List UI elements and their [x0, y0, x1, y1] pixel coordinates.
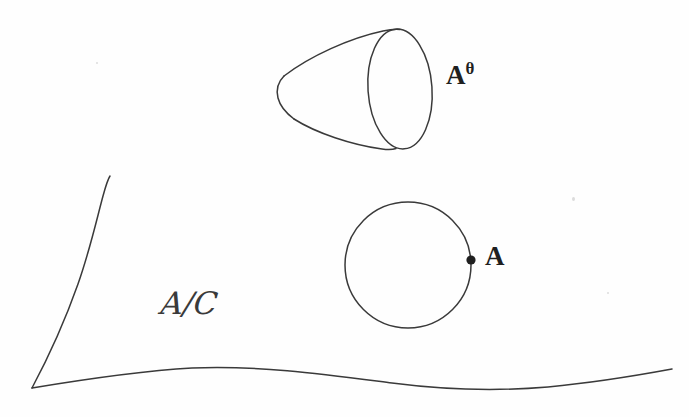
cone-label-base: A [446, 60, 466, 90]
circle-outline [345, 202, 471, 328]
surface-label-denominator: C [192, 285, 219, 321]
surface-bottom-edge [32, 367, 672, 389]
diagram-svg [0, 0, 689, 417]
surface-left-edge [32, 176, 110, 388]
scan-speckle [572, 197, 575, 201]
scan-speckle [607, 292, 609, 294]
cone-tip [277, 76, 294, 119]
surface-region [32, 176, 672, 389]
point-label: A [485, 243, 505, 270]
scan-speckle [96, 62, 98, 64]
cone-shape [277, 27, 436, 151]
figure-canvas: Aθ A A/C [0, 0, 689, 417]
marked-point-dot [466, 255, 475, 264]
cone-base-ellipse [364, 27, 436, 151]
circle-shape [345, 202, 476, 328]
cone-label: Aθ [446, 60, 474, 89]
surface-label: A/C [159, 288, 218, 319]
cone-label-superscript-theta: θ [466, 59, 475, 78]
